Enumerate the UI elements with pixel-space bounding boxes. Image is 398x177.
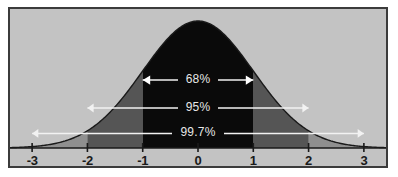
band-99-7-arrowhead-left — [32, 129, 38, 138]
x-tick-label-pos1: 1 — [240, 153, 266, 168]
x-tick-label-zero: 0 — [185, 153, 211, 168]
x-tick-label-pos3: 3 — [351, 153, 377, 168]
band-95-arrowhead-right — [302, 104, 308, 113]
x-tick-label-neg2: -2 — [74, 153, 100, 168]
x-tick-label-neg1: -1 — [130, 153, 156, 168]
chart-frame: 68% 95% 99.7% -3 -2 -1 0 1 2 3 — [8, 7, 388, 168]
label-68-percent: 68% — [163, 73, 233, 86]
band-99-7-arrowhead-right — [358, 129, 364, 138]
label-99-7-percent: 99.7% — [163, 126, 233, 139]
normal-distribution-figure: 68% 95% 99.7% -3 -2 -1 0 1 2 3 — [0, 0, 398, 177]
bell-curve-svg — [10, 9, 386, 166]
band-95-arrowhead-left — [87, 104, 93, 113]
chart-plot-area: 68% 95% 99.7% -3 -2 -1 0 1 2 3 — [10, 9, 386, 166]
label-95-percent: 95% — [163, 101, 233, 114]
x-tick-label-neg3: -3 — [19, 153, 45, 168]
x-tick-label-pos2: 2 — [296, 153, 322, 168]
